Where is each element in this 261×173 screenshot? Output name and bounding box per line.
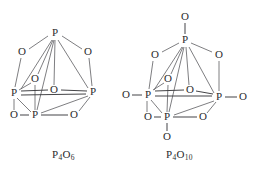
bond-apexP-innerO-a: [38, 40, 53, 74]
bond-leftO-leftP: [149, 61, 153, 89]
atom-label-o: O: [199, 110, 207, 122]
bond-leftO-leftP: [15, 58, 21, 87]
bond-innerO-b-rightP: [61, 90, 87, 91]
atom-label-o: O: [122, 88, 130, 100]
bond-rightP-frontP: [41, 96, 88, 113]
bond-innerO-b-leftP: [155, 90, 184, 91]
atom-label-p: P: [145, 88, 151, 100]
atom-label-o: O: [144, 110, 152, 122]
bond-apexP-rightO: [191, 43, 212, 52]
bond-apexP-innerO-b: [186, 47, 189, 85]
atom-label-o: O: [215, 48, 223, 60]
bond-apexP-rightO: [62, 36, 82, 49]
bond-apexP-leftO: [29, 36, 48, 49]
caption-p4o6: P4O6: [52, 148, 75, 162]
atom-label-o: O: [50, 83, 58, 95]
caption-element-o: O: [62, 148, 70, 160]
atom-label-p: P: [52, 26, 58, 38]
bond-leftP-frontP: [151, 100, 162, 113]
bond-rightP-frontO-right: [207, 102, 216, 113]
bond-rightP-frontP: [174, 101, 214, 115]
atom-label-o: O: [70, 108, 78, 120]
atom-label-p: P: [32, 108, 38, 120]
bond-rightO-rightP: [89, 58, 92, 86]
atom-label-p: P: [90, 85, 96, 97]
bond-innerO-b-leftP: [21, 90, 48, 91]
caption-p4o10: P4O10: [166, 148, 193, 162]
atom-label-o: O: [163, 130, 171, 142]
atom-label-p: P: [11, 86, 17, 98]
atom-label-p: P: [216, 90, 222, 102]
structure-p4o10: O P O O O O O P P O O P O O: [122, 10, 247, 142]
atom-label-o: O: [239, 90, 247, 102]
atom-label-o: O: [18, 45, 26, 57]
atom-label-p: P: [182, 33, 188, 45]
caption-subscript-6: 6: [71, 153, 75, 162]
bond-innerO-a-leftP: [153, 83, 164, 90]
atom-label-o: O: [164, 72, 172, 84]
atom-label-o: O: [181, 10, 189, 22]
atom-label-p: P: [164, 110, 170, 122]
atom-label-o: O: [31, 72, 39, 84]
atom-label-o: O: [186, 83, 194, 95]
bond-innerO-a-frontP: [167, 85, 168, 112]
bond-innerO-b-rightP: [196, 91, 213, 94]
bond-apexP-leftO: [162, 43, 179, 52]
bond-rightP-frontO-right: [79, 97, 90, 111]
atom-label-o: O: [151, 48, 159, 60]
atom-label-o: O: [10, 108, 18, 120]
molecular-structures-svg: P O O O O P P O P O: [0, 0, 261, 173]
structure-p4o6: P O O O O P P O P O: [10, 26, 96, 120]
atom-label-o: O: [84, 45, 92, 57]
bond-apexP-innerO-b: [54, 40, 55, 85]
bond-leftP-frontP: [17, 98, 31, 112]
figure-canvas: P O O O O P P O P O: [0, 0, 261, 173]
caption-subscript-10: 10: [185, 153, 193, 162]
caption-element-o: O: [176, 148, 184, 160]
bond-innerO-a-leftP: [19, 83, 31, 90]
